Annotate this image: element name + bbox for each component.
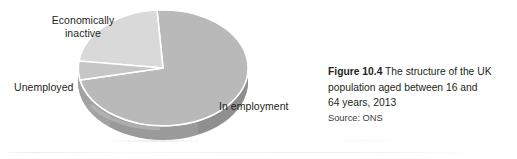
pie-label-unemployed: Unemployed [14, 81, 73, 94]
pie-chart: Economically inactive Unemployed In empl… [0, 0, 320, 159]
figure-caption: Figure 10.4 The structure of the UK popu… [328, 64, 514, 125]
pie-label-economically-inactive-line2: inactive [36, 27, 130, 40]
scan-artifact-right [330, 140, 400, 141]
caption-figure-number: Figure 10.4 [328, 66, 382, 77]
caption-line-2: population aged between 16 and [328, 80, 514, 96]
figure-source: Source: ONS [328, 111, 514, 125]
scan-artifact-bottom-line [0, 152, 517, 153]
figure-10-4: Economically inactive Unemployed In empl… [0, 0, 517, 159]
scan-artifact-mid [110, 140, 210, 142]
caption-line-3: 64 years, 2013 [328, 95, 514, 111]
pie-label-economically-inactive-line1: Economically [36, 14, 130, 27]
pie-label-in-employment: In employment [219, 100, 289, 113]
caption-line-1: Figure 10.4 The structure of the UK [328, 64, 514, 80]
caption-line-1-rest: The structure of the UK [382, 66, 491, 77]
pie-label-economically-inactive: Economically inactive [36, 14, 130, 39]
